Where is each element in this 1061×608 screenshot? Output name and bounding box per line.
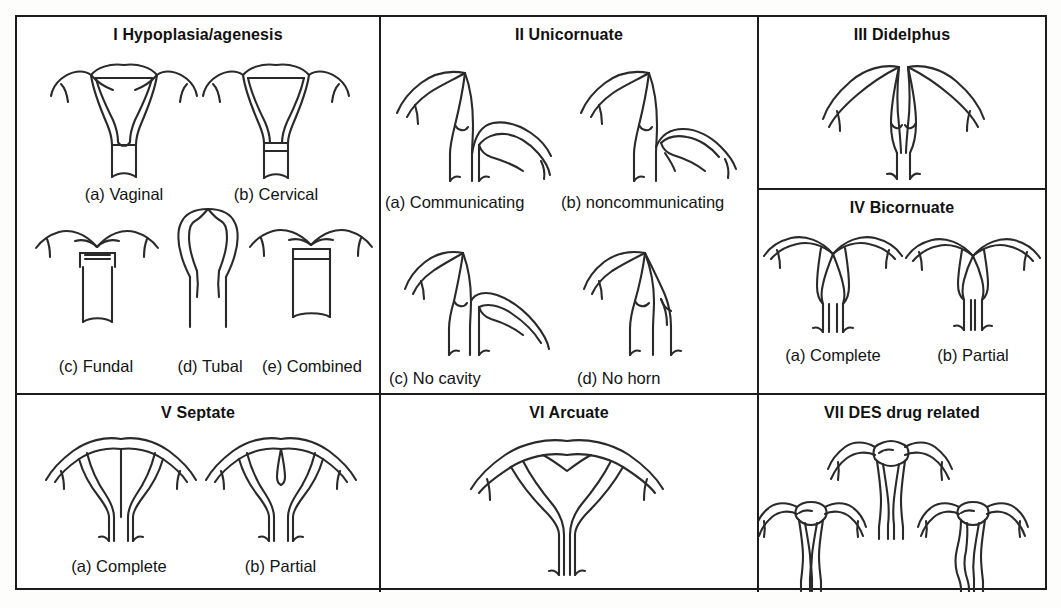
figure-label-tubal: (d) Tubal (163, 357, 257, 376)
panel-septate: V Septate (17, 395, 379, 592)
panel-title-didelphus: III Didelphus (759, 26, 1045, 44)
figure-bicornuate-partial (905, 226, 1041, 338)
figure-des-right (911, 493, 1041, 592)
figure-label-no-horn: (d) No horn (577, 369, 721, 388)
panel-title-septate: V Septate (17, 404, 379, 422)
figure-label-septate-partial: (b) Partial (203, 557, 358, 576)
panel-unicornuate: II Unicornuate (381, 17, 757, 393)
panel-des: VII DES drug related (759, 395, 1045, 592)
figure-root: I Hypoplasia/agenesis (0, 0, 1061, 608)
figure-label-no-cavity: (c) No cavity (389, 369, 549, 388)
figure-label-bicornuate-partial: (b) Partial (905, 346, 1041, 365)
panel-title-bicornuate: IV Bicornuate (759, 199, 1045, 217)
figure-label-communicating: (a) Communicating (385, 193, 569, 212)
panel-title-hypoplasia: I Hypoplasia/agenesis (17, 26, 379, 44)
figure-label-bicornuate-complete: (a) Complete (763, 346, 903, 365)
figure-no-horn (577, 239, 717, 359)
figure-combined (249, 217, 374, 332)
figure-fundal (35, 217, 160, 332)
panel-hypoplasia: I Hypoplasia/agenesis (17, 17, 379, 393)
figure-cervical (201, 52, 351, 182)
figure-arcuate (467, 431, 667, 581)
classification-grid: I Hypoplasia/agenesis (15, 15, 1047, 590)
figure-no-cavity (401, 239, 561, 359)
panel-title-arcuate: VI Arcuate (381, 404, 757, 422)
figure-noncommunicating (577, 57, 742, 187)
figure-label-fundal: (c) Fundal (31, 357, 161, 376)
figure-communicating (393, 57, 558, 187)
panel-title-des: VII DES drug related (759, 404, 1045, 422)
figure-label-noncommunicating: (b) noncommunicating (561, 193, 757, 212)
figure-didelphus (811, 53, 996, 183)
panel-title-unicornuate: II Unicornuate (381, 26, 757, 44)
panel-arcuate: VI Arcuate (381, 395, 757, 592)
figure-septate-partial (203, 427, 358, 545)
figure-des-left (759, 493, 873, 592)
figure-septate-complete (43, 427, 198, 545)
figure-vaginal (49, 52, 199, 182)
figure-tubal (169, 199, 247, 334)
figure-bicornuate-complete (763, 226, 903, 338)
figure-label-septate-complete: (a) Complete (39, 557, 199, 576)
panel-bicornuate: IV Bicornuate (759, 190, 1045, 393)
figure-label-combined: (e) Combined (245, 357, 379, 376)
panel-didelphus: III Didelphus (759, 17, 1045, 188)
